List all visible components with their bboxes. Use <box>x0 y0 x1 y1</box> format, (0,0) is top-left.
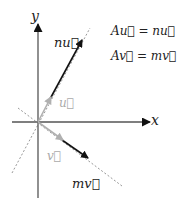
mv-label: mv⃗ <box>72 177 99 190</box>
eigenvector-diagram: y x nu⃗ u⃗ v⃗ mv⃗ Au⃗ = nu⃗ Av⃗ = mv⃗ <box>0 0 180 205</box>
mv-vector <box>62 140 88 158</box>
nu-label: nu⃗ <box>54 36 79 49</box>
x-axis-label: x <box>151 113 159 127</box>
u-vector <box>38 97 51 122</box>
v-vector <box>38 122 63 140</box>
u-label: u⃗ <box>59 97 74 109</box>
y-axis-label: y <box>31 9 39 23</box>
v-span-dashed-line <box>18 108 122 186</box>
equation-u: Au⃗ = nu⃗ <box>111 25 175 37</box>
equation-v: Av⃗ = mv⃗ <box>111 50 176 62</box>
v-label: v⃗ <box>47 150 61 162</box>
